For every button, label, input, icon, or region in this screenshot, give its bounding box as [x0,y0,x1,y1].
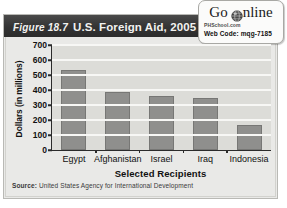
y-axis-title: Dollars (in millions) [14,51,24,147]
x-axis-tick-mark [183,150,185,153]
figure-title: U.S. Foreign Aid, 2005 [73,21,196,33]
source-note: Source:United States Agency for Internat… [12,182,193,189]
x-axis-category-label: Afghanistan [94,154,142,164]
y-axis-tick-label: 100 [33,130,47,140]
figure-title-text: Figure 18.7U.S. Foreign Aid, 2005 [13,18,196,36]
y-axis-tick-mark [48,104,52,106]
y-axis-tick-mark [48,119,52,121]
go-online-logo-nline: nline [243,4,273,20]
y-axis-tick-label: 0 [42,145,47,155]
y-axis-tick-mark [48,59,52,61]
x-axis-category-label: Egypt [62,154,85,164]
y-axis-tick-mark [48,134,52,136]
x-axis-tick-mark [95,150,97,153]
bar [105,92,130,150]
gridline [52,134,271,136]
badge-site-name: PHSchool.com [204,22,240,28]
y-axis-tick-label: 200 [33,115,47,125]
x-axis-title: Selected Recipients [51,168,270,179]
y-axis-tick-label: 600 [33,55,47,65]
gridline [52,89,271,91]
y-axis-tick-label: 400 [33,85,47,95]
y-axis-tick-label: 300 [33,100,47,110]
y-axis-tick-label: 500 [33,70,47,80]
plot-area: 0100200300400500600700EgyptAfghanistanIs… [51,45,271,151]
gridline [52,59,271,61]
figure-root: Figure 18.7U.S. Foreign Aid, 2005 Go nli… [0,0,287,208]
source-text: United States Agency for International D… [39,182,193,189]
bar [237,125,262,150]
y-axis-tick-mark [48,74,52,76]
gridline [52,74,271,76]
go-online-logo: Go nline [199,3,283,21]
x-axis-category-label: Iraq [198,154,214,164]
gridline [52,104,271,106]
globe-icon [231,8,243,20]
x-axis-category-label: Indonesia [230,154,269,164]
y-axis-tick-mark [48,89,52,91]
source-label: Source: [12,182,37,189]
figure-number: Figure 18.7 [13,22,68,33]
go-online-logo-go: Go [209,4,227,20]
bar [193,98,218,150]
x-axis-tick-mark [139,150,141,153]
y-axis-tick-label: 700 [33,40,47,50]
gridline [52,119,271,121]
badge-web-code: Web Code:mqg-7185 [204,30,272,37]
badge-web-code-value: mqg-7185 [241,30,272,37]
y-axis-tick-mark [48,44,52,46]
y-axis-tick-mark [48,149,52,151]
badge-web-code-label: Web Code: [204,30,239,37]
x-axis-category-label: Israel [150,154,172,164]
bar [61,70,86,150]
chart-area: Dollars (in millions) 010020030040050060… [4,37,277,177]
gridline [52,44,271,46]
x-axis-tick-mark [226,150,228,153]
